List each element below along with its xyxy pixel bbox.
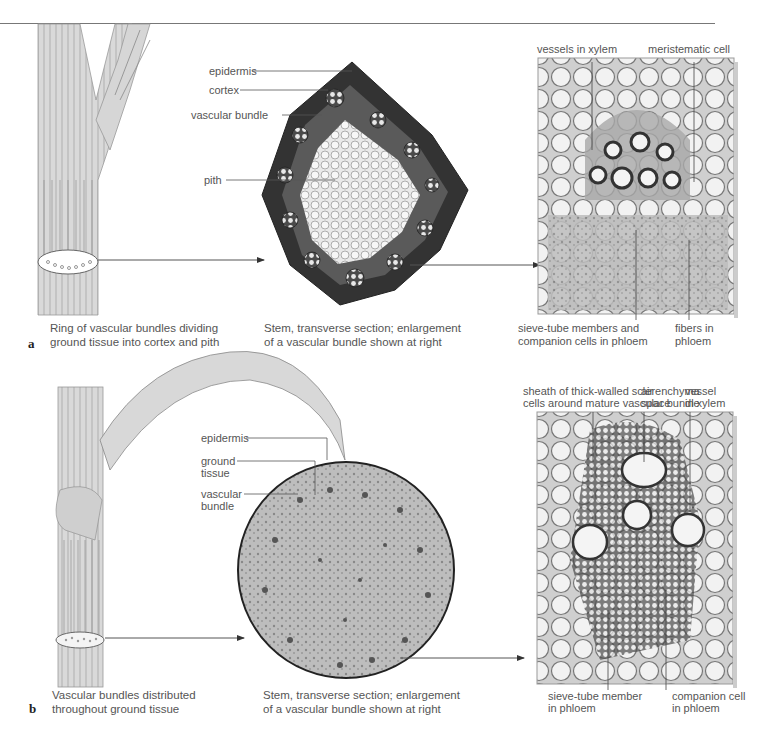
label-meristematic-cell: meristematic cell: [648, 43, 730, 56]
caption-a-stem-line2: ground tissue into cortex and pith: [50, 335, 219, 350]
label-ground-tissue-line2: tissue: [201, 467, 230, 480]
label-sieve-tube-members-a-line2: companion cells in phloem: [518, 335, 648, 348]
label-epidermis-b: epidermis: [201, 432, 249, 445]
label-cortex-a: cortex: [209, 84, 239, 97]
label-epidermis-a: epidermis: [209, 65, 257, 78]
label-vascular-bundle-a: vascular bundle: [191, 109, 268, 122]
label-pith-a: pith: [204, 174, 222, 187]
caption-a-stem-line1: Ring of vascular bundles dividing: [50, 321, 218, 336]
label-fibers-line2: phloem: [675, 335, 711, 348]
label-sheath-line2: cells around mature vascular bundle: [523, 397, 700, 410]
monocot-bundle-micrograph: [537, 412, 737, 690]
label-fibers-line1: fibers in: [675, 322, 714, 335]
label-vessels-in-xylem: vessels in xylem: [537, 43, 617, 56]
part-label-a: a: [28, 336, 35, 352]
label-vessel-in-xylem-line2: in xylem: [685, 397, 725, 410]
label-sieve-tube-member-b-line2: in phloem: [548, 702, 596, 715]
caption-b-section-line1: Stem, transverse section; enlargement: [263, 688, 460, 703]
label-companion-cell-line2: in phloem: [672, 702, 720, 715]
caption-a-section-line2: of a vascular bundle shown at right: [264, 335, 442, 350]
dicot-bundle-micrograph: [538, 58, 738, 320]
diagram-artwork: [0, 0, 767, 743]
caption-b-section-line2: of a vascular bundle shown at right: [263, 702, 441, 717]
label-sieve-tube-members-a-line1: sieve-tube members and: [518, 322, 639, 335]
label-air-space-line2: space: [641, 397, 670, 410]
caption-a-section-line1: Stem, transverse section; enlargement: [264, 321, 461, 336]
part-label-b: b: [29, 701, 36, 717]
caption-b-stem-line2: throughout ground tissue: [52, 702, 179, 717]
dicot-transverse-section: [262, 62, 540, 305]
caption-b-stem-line1: Vascular bundles distributed: [52, 688, 196, 703]
label-vascular-bundle-b-line2: bundle: [201, 500, 234, 513]
